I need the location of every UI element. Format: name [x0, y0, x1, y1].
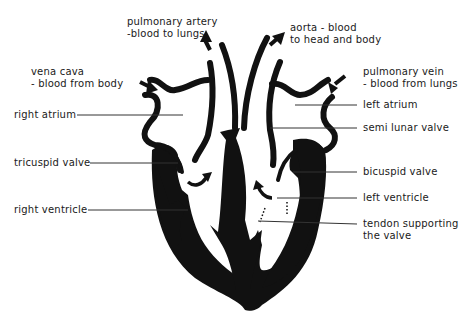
label-tendon: tendon supporting the valve — [363, 218, 459, 242]
arrow-right-atrium-to-ventricle — [188, 178, 206, 185]
label-tricuspid-valve: tricuspid valve — [14, 157, 90, 169]
label-left-atrium: left atrium — [363, 99, 418, 111]
label-vena-cava: vena cava - blood from body — [31, 66, 123, 90]
label-bicuspid-valve: bicuspid valve — [363, 166, 438, 178]
label-right-atrium: right atrium — [14, 109, 76, 121]
label-pulmonary-artery: pulmonary artery -blood to lungs — [127, 16, 218, 40]
aorta-right — [269, 62, 280, 165]
arrow-pulmonary-vein-in — [335, 76, 345, 84]
label-right-ventricle: right ventricle — [14, 204, 87, 216]
tendon-left — [260, 208, 265, 222]
label-left-ventricle: left ventricle — [363, 192, 429, 204]
pulmonary-artery-inner — [222, 45, 235, 128]
aorta-inner — [244, 38, 267, 128]
pulmonary-vein-upper — [272, 80, 328, 95]
label-pulmonary-vein: pulmonary vein - blood from lungs — [363, 66, 458, 90]
vena-cava-upper — [150, 80, 208, 90]
label-aorta: aorta - blood to head and body — [290, 22, 381, 46]
label-semi-lunar-valve: semi lunar valve — [363, 122, 449, 134]
